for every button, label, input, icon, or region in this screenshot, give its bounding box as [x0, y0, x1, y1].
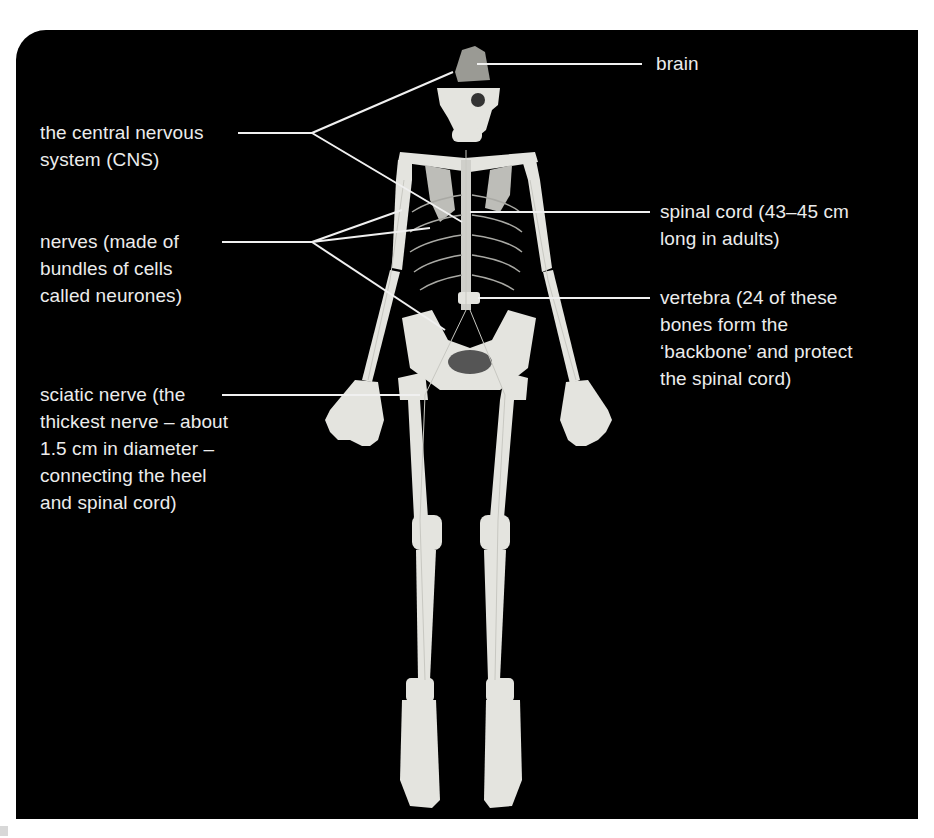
caption-marker: [0, 826, 8, 836]
label-cns: the central nervous system (CNS): [40, 119, 204, 173]
skeleton: [325, 46, 612, 808]
nerves-leader-fork-upper: [312, 210, 430, 242]
label-nerves: nerves (made of bundles of cells called …: [40, 228, 182, 309]
label-brain: brain: [656, 50, 699, 77]
label-sciatic-nerve: sciatic nerve (the thickest nerve – abou…: [40, 381, 228, 516]
label-vertebra: vertebra (24 of these bones form the ‘ba…: [660, 284, 853, 392]
label-spinal-cord: spinal cord (43–45 cm long in adults): [660, 198, 849, 252]
